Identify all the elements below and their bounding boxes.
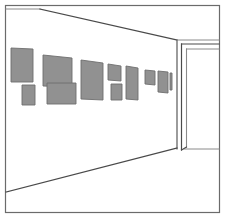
painting-11: back small canvas near corner bbox=[170, 73, 172, 90]
painting-5: tall middle canvas bbox=[81, 60, 103, 100]
painting-7: lower small canvas bbox=[111, 84, 122, 100]
painting-8: tall narrow canvas bbox=[126, 66, 138, 100]
painting-10: farthest narrow canvas bbox=[158, 71, 168, 93]
painting-9: far small canvas bbox=[145, 70, 155, 85]
painting-1: large upper left canvas bbox=[11, 48, 33, 82]
painting-2: wide upper canvas bbox=[43, 55, 72, 87]
gallery-sketch-canvas: large upper left canvaswide upper canvas… bbox=[0, 0, 225, 218]
painting-6: upper small canvas bbox=[108, 64, 121, 81]
painting-4: wide lower canvas bbox=[47, 83, 76, 104]
painting-3: small lower left square bbox=[22, 85, 35, 105]
gallery-line-drawing: large upper left canvaswide upper canvas… bbox=[0, 0, 225, 218]
